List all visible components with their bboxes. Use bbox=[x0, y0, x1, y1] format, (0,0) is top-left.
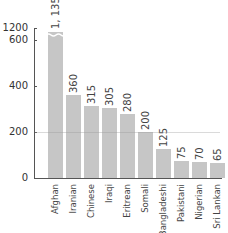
y-axis bbox=[34, 28, 35, 178]
bar-iranian bbox=[66, 95, 81, 178]
category-label: Nigerian bbox=[194, 184, 204, 233]
category-label: Iranian bbox=[68, 184, 78, 233]
bar-chinese bbox=[84, 106, 99, 178]
bar-pakistani bbox=[174, 161, 189, 178]
bar-sri-lankan bbox=[210, 163, 225, 178]
axis-break-icon bbox=[46, 33, 65, 38]
bar-value-label: 75 bbox=[177, 146, 187, 159]
category-label: Afghan bbox=[50, 184, 60, 233]
y-tick-mark bbox=[34, 40, 37, 41]
category-label: Iraqi bbox=[104, 184, 114, 233]
category-label: Eritrean bbox=[122, 184, 132, 233]
bar-eritrean bbox=[120, 114, 135, 178]
bar-iraqi bbox=[102, 108, 117, 178]
category-label: Bangladeshi bbox=[158, 184, 168, 233]
y-tick-mark bbox=[34, 28, 37, 29]
ytick-200: 200 bbox=[9, 127, 28, 137]
ytick-0: 0 bbox=[22, 173, 28, 183]
bar-value-label: 125 bbox=[159, 128, 169, 147]
y-tick-mark bbox=[34, 86, 37, 87]
bar-bangladeshi bbox=[156, 149, 171, 178]
bar-value-label: 200 bbox=[141, 111, 151, 130]
bar-value-label: 65 bbox=[213, 148, 223, 161]
bar-value-label: 360 bbox=[69, 74, 79, 93]
x-axis bbox=[34, 178, 222, 179]
bar-value-label: 315 bbox=[87, 85, 97, 104]
bar-afghan bbox=[48, 32, 63, 178]
gridline-200 bbox=[35, 132, 220, 133]
category-label: Pakistani bbox=[176, 184, 186, 233]
ytick-400: 400 bbox=[9, 81, 28, 91]
bar-value-label: 280 bbox=[123, 93, 133, 112]
bar-value-label: 305 bbox=[105, 87, 115, 106]
bar-nigerian bbox=[192, 162, 207, 178]
bar-value-label: 70 bbox=[195, 147, 205, 160]
ytick-1200: 1200 bbox=[3, 23, 28, 33]
bar-somali bbox=[138, 132, 153, 178]
category-label: Somali bbox=[140, 184, 150, 233]
ytick-600: 600 bbox=[9, 35, 28, 45]
bar-value-label: 1, 135 bbox=[51, 0, 61, 29]
category-label: Chinese bbox=[86, 184, 96, 233]
category-label: Sri Lankan bbox=[212, 184, 222, 233]
bar-chart: 1200 600 400 200 0 1, 135 360 315 305 28… bbox=[0, 0, 228, 233]
